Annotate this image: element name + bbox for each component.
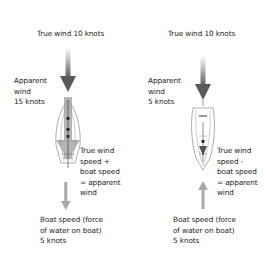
text-line: 5 knots (40, 236, 103, 247)
text-line: of water on boat) (40, 226, 103, 237)
left-true-wind-label: True wind 10 knots (37, 29, 104, 40)
right-equation-label: True wind speed - boat speed = apparent … (217, 146, 257, 199)
left-boat-speed-arrow (61, 182, 71, 210)
text-line: 5 knots (148, 97, 181, 108)
text-line: wind (80, 188, 120, 199)
right-boat-speed-arrow (198, 181, 208, 209)
text-line: = apparent (217, 178, 257, 189)
right-true-wind-label: True wind 10 knots (168, 29, 235, 40)
left-equation-label: True wind speed + boat speed = apparent … (80, 146, 120, 199)
left-true-wind-arrow (60, 47, 76, 92)
text-line: wind (14, 87, 47, 98)
text-line: Boat speed (force (173, 215, 236, 226)
left-apparent-wind-label: Apparent wind 15 knots (14, 76, 47, 108)
right-apparent-wind-label: Apparent wind 5 knots (148, 76, 181, 108)
left-boat-speed-label: Boat speed (force of water on boat) 5 kn… (40, 215, 103, 247)
text-line: True wind (217, 146, 257, 157)
text-line: of water on boat) (173, 226, 236, 237)
text-line: speed - (217, 157, 257, 168)
text-line: Apparent (148, 76, 181, 87)
text-line: True wind (80, 146, 120, 157)
right-boat (192, 100, 215, 170)
left-boat (56, 97, 80, 168)
text-line: 15 knots (14, 97, 47, 108)
text-line: Boat speed (force (40, 215, 103, 226)
text-line: = apparent (80, 178, 120, 189)
right-true-wind-arrow (195, 55, 211, 100)
text-line: boat speed (80, 167, 120, 178)
text-line: 5 knots (173, 236, 236, 247)
text-line: wind (148, 87, 181, 98)
text-line: speed + (80, 157, 120, 168)
right-boat-speed-label: Boat speed (force of water on boat) 5 kn… (173, 215, 236, 247)
text-line: wind (217, 188, 257, 199)
text-line: boat speed (217, 167, 257, 178)
text-line: Apparent (14, 76, 47, 87)
